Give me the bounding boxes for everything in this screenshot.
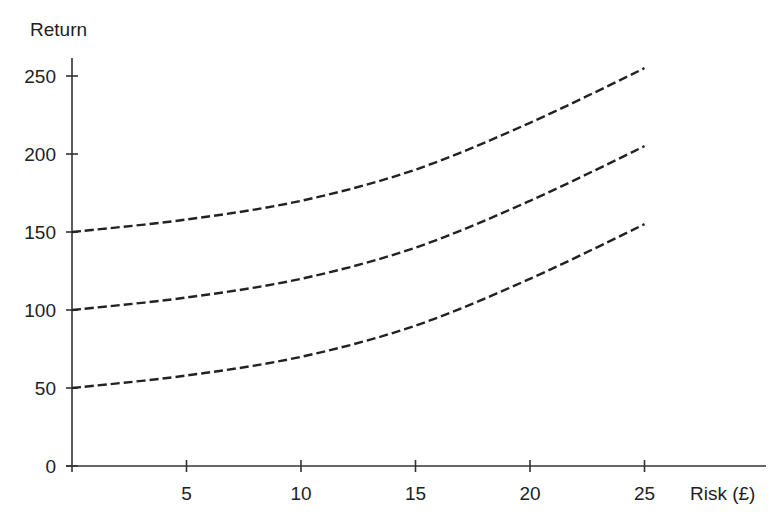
y-ticks: 050100150200250 — [24, 66, 78, 477]
y-axis-label: Return — [30, 19, 87, 40]
curve-upper — [72, 68, 645, 232]
x-tick-label: 15 — [405, 483, 426, 504]
y-tick-label: 200 — [24, 144, 56, 165]
y-tick-label: 250 — [24, 66, 56, 87]
x-tick-label: 10 — [290, 483, 311, 504]
risk-return-chart: Return Risk (£) 050100150200250 51015202… — [0, 0, 784, 526]
y-tick-label: 100 — [24, 300, 56, 321]
x-tick-label: 25 — [634, 483, 655, 504]
curve-middle — [72, 146, 645, 310]
y-tick-label: 50 — [35, 378, 56, 399]
curve-lower — [72, 224, 645, 388]
x-tick-label: 20 — [519, 483, 540, 504]
x-axis-label: Risk (£) — [690, 483, 755, 504]
y-tick-label: 0 — [45, 456, 56, 477]
y-tick-label: 150 — [24, 222, 56, 243]
x-tick-label: 5 — [181, 483, 192, 504]
curves — [72, 68, 645, 388]
